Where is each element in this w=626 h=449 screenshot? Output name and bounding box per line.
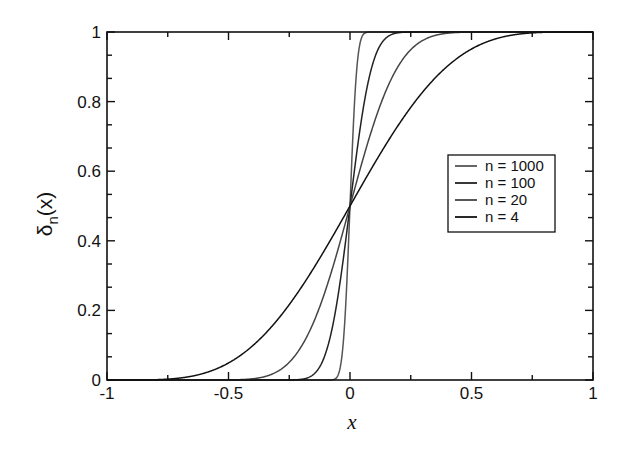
y-tick-label: 1 — [92, 23, 101, 42]
y-axis-title-main: δ — [33, 225, 56, 237]
chart: -1-0.500.51 00.20.40.60.81 x δn(x) n = 1… — [0, 0, 626, 449]
x-tick-label: 0 — [345, 384, 354, 403]
legend-label: n = 4 — [485, 208, 519, 225]
x-tick-label: 1 — [588, 384, 597, 403]
y-axis-title-tail: (x) — [33, 192, 56, 217]
svg-text:δn(x): δn(x) — [33, 192, 61, 237]
legend: n = 1000n = 100n = 20n = 4 — [448, 155, 555, 232]
y-axis-title: δn(x) — [33, 192, 61, 237]
y-tick-label: 0.4 — [77, 232, 101, 251]
x-tick-label: 0.5 — [460, 384, 484, 403]
x-tick-label: -0.5 — [214, 384, 243, 403]
y-tick-label: 0.8 — [77, 93, 101, 112]
y-tick-label: 0.6 — [77, 162, 101, 181]
legend-label: n = 1000 — [485, 157, 544, 174]
y-axis-title-subscript: n — [44, 216, 61, 224]
x-tick-labels: -1-0.500.51 — [99, 384, 597, 403]
x-tick-label: -1 — [99, 384, 114, 403]
y-tick-label: 0 — [92, 371, 101, 390]
legend-label: n = 100 — [485, 174, 535, 191]
legend-label: n = 20 — [485, 191, 527, 208]
y-tick-label: 0.2 — [77, 301, 101, 320]
x-axis-title: x — [346, 410, 357, 434]
y-tick-labels: 00.20.40.60.81 — [77, 23, 101, 390]
